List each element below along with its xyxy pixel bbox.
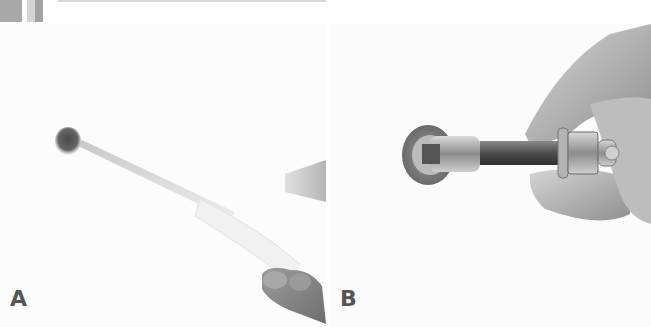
header-accent-block [35, 0, 43, 22]
panel-label-a: A [10, 286, 27, 311]
header-accent-block [27, 0, 35, 22]
photo-panel-b [330, 24, 651, 327]
anchor-bolt-photo [330, 24, 651, 327]
header-bar [0, 0, 651, 24]
drilling-photo [0, 24, 326, 327]
photo-panel-a [0, 24, 326, 327]
hole [55, 127, 81, 155]
panel-label-b: B [340, 286, 357, 311]
header-rule [58, 0, 326, 2]
header-accent-block [0, 0, 22, 22]
